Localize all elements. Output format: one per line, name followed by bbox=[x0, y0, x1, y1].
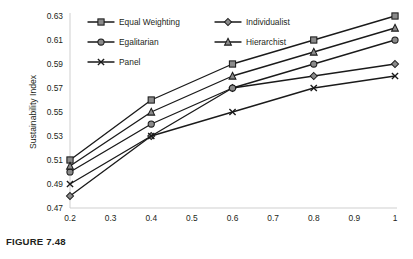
legend-label: Egalitarian bbox=[119, 37, 159, 47]
y-tick-label: 0.53 bbox=[47, 131, 64, 141]
y-tick-label: 0.59 bbox=[47, 59, 64, 69]
y-tick-label: 0.47 bbox=[47, 203, 64, 213]
y-tick-label: 0.49 bbox=[47, 179, 64, 189]
square-marker bbox=[148, 97, 154, 103]
line-chart: 0.470.490.510.530.550.570.590.610.63 0.2… bbox=[0, 0, 413, 228]
chart-legend: Equal WeightingIndividualistEgalitarianH… bbox=[88, 17, 290, 67]
x-axis-tick-labels: 0.20.30.40.50.60.70.80.91 bbox=[64, 213, 397, 223]
legend-label: Equal Weighting bbox=[119, 17, 180, 27]
square-marker bbox=[98, 19, 104, 25]
x-tick-label: 0.8 bbox=[308, 213, 320, 223]
figure-caption: FIGURE 7.48 bbox=[6, 236, 66, 247]
diamond-marker bbox=[310, 73, 317, 80]
series-egalitarian bbox=[67, 37, 398, 175]
x-tick-label: 0.9 bbox=[349, 213, 361, 223]
series-hierarchist bbox=[67, 24, 399, 169]
figure-container: 0.470.490.510.530.550.570.590.610.63 0.2… bbox=[0, 0, 413, 259]
x-tick-label: 0.5 bbox=[186, 213, 198, 223]
diamond-marker bbox=[225, 19, 232, 26]
legend-item-hierarchist[interactable]: Hierarchist bbox=[215, 37, 287, 47]
y-tick-label: 0.55 bbox=[47, 107, 64, 117]
circle-marker bbox=[229, 85, 235, 91]
y-tick-label: 0.51 bbox=[47, 155, 64, 165]
series-individualist bbox=[67, 61, 399, 200]
square-marker bbox=[392, 13, 398, 19]
y-axis-title: Sustainability Index bbox=[28, 74, 38, 149]
x-tick-label: 0.7 bbox=[267, 213, 279, 223]
legend-item-individualist[interactable]: Individualist bbox=[215, 17, 290, 27]
triangle-marker bbox=[148, 108, 155, 115]
x-tick-label: 0.4 bbox=[145, 213, 157, 223]
circle-marker bbox=[311, 61, 317, 67]
legend-label: Individualist bbox=[246, 17, 290, 27]
y-tick-label: 0.63 bbox=[47, 11, 64, 21]
x-tick-label: 0.6 bbox=[227, 213, 239, 223]
circle-marker bbox=[98, 39, 104, 45]
square-marker bbox=[229, 61, 235, 67]
chart-plot-area: 0.470.490.510.530.550.570.590.610.63 0.2… bbox=[0, 0, 413, 228]
diamond-marker bbox=[392, 61, 399, 68]
legend-label: Hierarchist bbox=[246, 37, 287, 47]
y-axis-tick-labels: 0.470.490.510.530.550.570.590.610.63 bbox=[47, 11, 64, 213]
x-tick-label: 0.2 bbox=[64, 213, 76, 223]
y-tick-label: 0.57 bbox=[47, 83, 64, 93]
data-series-group bbox=[67, 13, 399, 200]
legend-item-equal-weighting[interactable]: Equal Weighting bbox=[88, 17, 180, 27]
triangle-marker bbox=[392, 24, 399, 31]
x-tick-label: 1 bbox=[393, 213, 398, 223]
legend-item-panel[interactable]: Panel bbox=[88, 57, 141, 67]
circle-marker bbox=[392, 37, 398, 43]
circle-marker bbox=[148, 121, 154, 127]
legend-label: Panel bbox=[119, 57, 141, 67]
y-tick-label: 0.61 bbox=[47, 35, 64, 45]
series-line bbox=[70, 28, 395, 166]
square-marker bbox=[311, 37, 317, 43]
x-tick-label: 0.3 bbox=[105, 213, 117, 223]
legend-item-egalitarian[interactable]: Egalitarian bbox=[88, 37, 159, 47]
circle-marker bbox=[67, 169, 73, 175]
